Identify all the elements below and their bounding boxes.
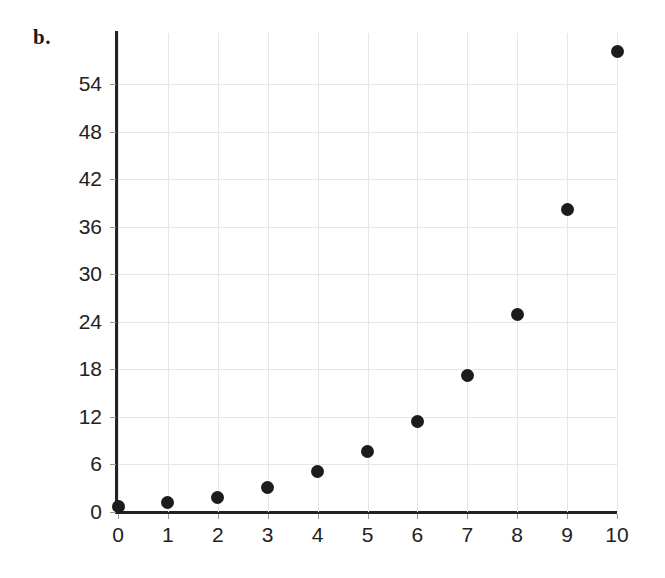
- x-axis-tick-label: 0: [93, 523, 143, 547]
- gridline-horizontal: [118, 132, 617, 133]
- gridline-vertical: [168, 33, 169, 512]
- y-axis-tick: [110, 369, 116, 370]
- gridline-horizontal: [118, 84, 617, 85]
- gridline-vertical: [268, 33, 269, 512]
- gridline-vertical: [318, 33, 319, 512]
- y-axis-tick-label: 36: [42, 215, 102, 239]
- data-point: [112, 500, 125, 513]
- gridline-horizontal: [118, 464, 617, 465]
- gridline-vertical: [417, 33, 418, 512]
- gridline-vertical: [517, 33, 518, 512]
- x-axis-tick: [168, 514, 169, 519]
- x-axis-tick-label: 4: [293, 523, 343, 547]
- y-axis-tick-label: 0: [42, 500, 102, 524]
- x-axis-tick-label: 3: [243, 523, 293, 547]
- data-point: [211, 491, 224, 504]
- y-axis-tick-label: 24: [42, 310, 102, 334]
- y-axis-tick-label: 30: [42, 262, 102, 286]
- x-axis-tick: [118, 514, 119, 519]
- x-axis-tick: [318, 514, 319, 519]
- y-axis-tick: [110, 512, 116, 513]
- gridline-vertical: [617, 33, 618, 512]
- gridline-horizontal: [118, 179, 617, 180]
- data-point: [261, 481, 274, 494]
- y-axis-tick-label: 6: [42, 452, 102, 476]
- data-point: [311, 465, 324, 478]
- x-axis-tick-label: 8: [492, 523, 542, 547]
- gridline-vertical: [218, 33, 219, 512]
- y-axis-tick: [110, 179, 116, 180]
- gridline-horizontal: [118, 274, 617, 275]
- gridline-vertical: [368, 33, 369, 512]
- gridline-vertical: [567, 33, 568, 512]
- y-axis-tick-label: 12: [42, 405, 102, 429]
- x-axis-tick: [567, 514, 568, 519]
- x-axis-tick: [617, 514, 618, 519]
- y-axis-tick-label: 48: [42, 120, 102, 144]
- gridline-vertical: [467, 33, 468, 512]
- x-axis-tick: [218, 514, 219, 519]
- data-point: [511, 308, 524, 321]
- x-axis-tick: [467, 514, 468, 519]
- data-point: [161, 496, 174, 509]
- x-axis-tick-label: 5: [343, 523, 393, 547]
- plot-area: [118, 33, 617, 512]
- x-axis-tick: [417, 514, 418, 519]
- y-axis-tick-label: 42: [42, 167, 102, 191]
- y-axis-tick: [110, 274, 116, 275]
- x-axis-tick-label: 2: [193, 523, 243, 547]
- gridline-vertical: [118, 33, 119, 512]
- x-axis-tick-label: 1: [143, 523, 193, 547]
- y-axis-tick-label: 18: [42, 357, 102, 381]
- y-axis-tick-label: 54: [42, 72, 102, 96]
- data-point: [611, 45, 624, 58]
- y-axis-tick: [110, 417, 116, 418]
- x-axis-tick-label: 6: [392, 523, 442, 547]
- gridline-horizontal: [118, 227, 617, 228]
- panel-label: b.: [33, 25, 51, 50]
- data-point: [561, 203, 574, 216]
- x-axis-tick-label: 9: [542, 523, 592, 547]
- x-axis-tick-label: 10: [592, 523, 642, 547]
- y-axis-tick: [110, 84, 116, 85]
- y-axis-tick: [110, 132, 116, 133]
- gridline-horizontal: [118, 369, 617, 370]
- y-axis-tick: [110, 227, 116, 228]
- x-axis-tick: [368, 514, 369, 519]
- y-axis-tick: [110, 322, 116, 323]
- x-axis-tick: [268, 514, 269, 519]
- scatter-plot-figure: b. 061218243036424854 012345678910: [0, 0, 665, 578]
- gridline-horizontal: [118, 322, 617, 323]
- x-axis-tick: [517, 514, 518, 519]
- gridline-horizontal: [118, 417, 617, 418]
- x-axis-tick-label: 7: [442, 523, 492, 547]
- data-point: [411, 415, 424, 428]
- y-axis-tick: [110, 464, 116, 465]
- data-point: [461, 369, 474, 382]
- data-point: [361, 445, 374, 458]
